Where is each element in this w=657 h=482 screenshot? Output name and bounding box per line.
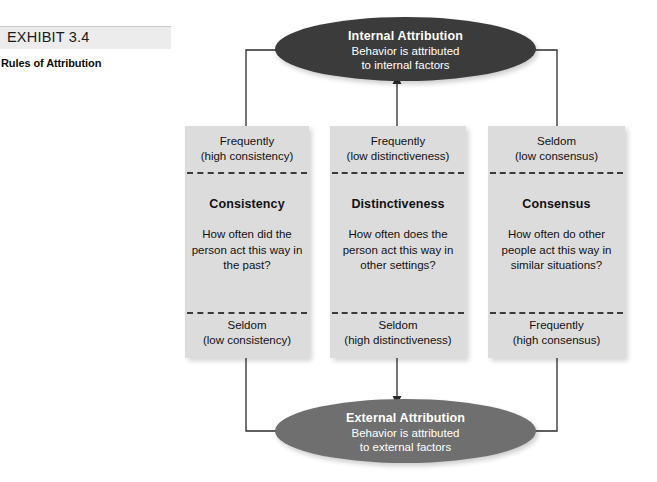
consistency-bottom-caption-line2: (low consistency) [185,333,309,348]
consistency-top-caption: Frequently (high consistency) [185,134,309,164]
factor-box-consistency: Frequently (high consistency) Consistenc… [185,126,309,358]
consensus-top-caption: Seldom (low consensus) [488,134,625,164]
external-attribution-title: External Attribution [275,411,536,426]
consensus-bottom-caption-line2: (high consensus) [488,333,625,348]
consensus-top-caption-line1: Seldom [488,134,625,149]
internal-attribution-line2: to internal factors [275,58,536,72]
external-attribution-line1: Behavior is attributed [275,426,536,440]
consistency-heading: Consistency [185,197,309,211]
factor-box-consensus: Seldom (low consensus) Consensus How oft… [488,126,625,358]
consensus-heading: Consensus [488,197,625,211]
consensus-top-caption-line2: (low consensus) [488,149,625,164]
consensus-divider-bottom [490,312,623,314]
external-attribution-line2: to external factors [275,440,536,454]
consistency-bottom-caption: Seldom (low consistency) [185,318,309,348]
distinctiveness-question: How often does the person act this way i… [332,227,464,274]
consensus-bottom-caption: Frequently (high consensus) [488,318,625,348]
distinctiveness-bottom-caption-line1: Seldom [330,318,466,333]
consistency-top-caption-line2: (high consistency) [185,149,309,164]
distinctiveness-divider-top [332,172,464,174]
exhibit-header-bar: EXHIBIT 3.4 [0,26,171,49]
node-internal-attribution: Internal Attribution Behavior is attribu… [275,17,536,81]
consistency-top-caption-line1: Frequently [185,134,309,149]
distinctiveness-bottom-caption-line2: (high distinctiveness) [330,333,466,348]
consistency-divider-bottom [187,312,307,314]
consistency-bottom-caption-line1: Seldom [185,318,309,333]
distinctiveness-bottom-caption: Seldom (high distinctiveness) [330,318,466,348]
exhibit-figure: EXHIBIT 3.4 Rules of Attribution Interna… [0,0,657,482]
exhibit-label: EXHIBIT 3.4 [7,29,90,45]
distinctiveness-top-caption: Frequently (low distinctiveness) [330,134,466,164]
exhibit-subtitle: Rules of Attribution [1,57,101,69]
consensus-question: How often do other people act this way i… [490,227,623,274]
internal-attribution-line1: Behavior is attributed [275,44,536,58]
distinctiveness-top-caption-line1: Frequently [330,134,466,149]
consistency-divider-top [187,172,307,174]
internal-attribution-title: Internal Attribution [275,29,536,44]
distinctiveness-top-caption-line2: (low distinctiveness) [330,149,466,164]
factor-box-distinctiveness: Frequently (low distinctiveness) Distinc… [330,126,466,358]
distinctiveness-heading: Distinctiveness [330,197,466,211]
node-external-attribution: External Attribution Behavior is attribu… [275,399,536,463]
consensus-divider-top [490,172,623,174]
consistency-question: How often did the person act this way in… [187,227,307,274]
consensus-bottom-caption-line1: Frequently [488,318,625,333]
distinctiveness-divider-bottom [332,312,464,314]
